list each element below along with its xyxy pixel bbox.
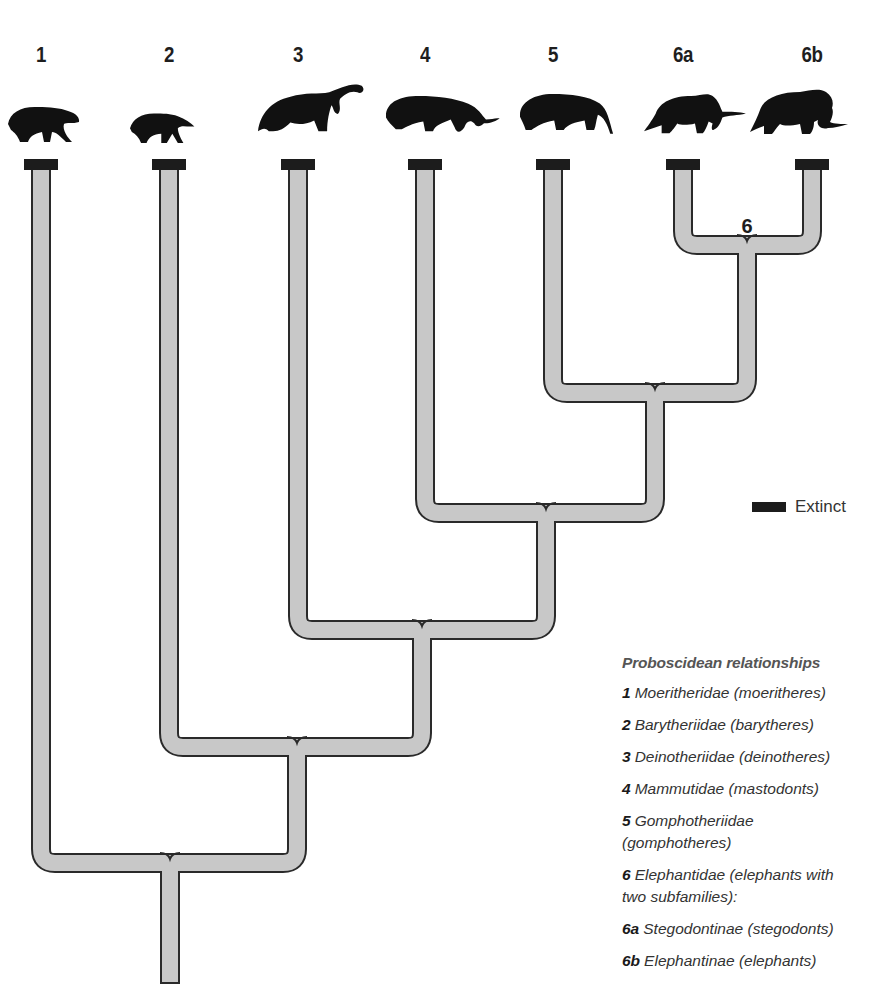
- extinct-marker-1: [24, 159, 58, 170]
- extinct-marker-6a: [666, 159, 700, 170]
- legend-item-1: 1Moeritheridae (moeritheres): [622, 682, 872, 704]
- taxon-label-3: 3: [292, 42, 304, 68]
- legend-item-2: 2Barytheriidae (barytheres): [622, 714, 872, 736]
- extinct-label: Extinct: [795, 497, 846, 517]
- branch-outline-4+: [425, 170, 655, 513]
- moeritherium-silhouette-icon: [8, 107, 79, 142]
- extinct-marker-2: [152, 159, 186, 170]
- stegodon-silhouette-icon-shape: [644, 94, 746, 133]
- branch-4+: [425, 170, 655, 513]
- mastodon-silhouette-icon-shape: [386, 96, 500, 132]
- taxon-label-2: 2: [163, 42, 175, 68]
- deinotherium-silhouette-icon-shape: [258, 84, 363, 131]
- legend-item-6a: 6aStegodontinae (stegodonts): [622, 918, 872, 940]
- taxon-label-5: 5: [547, 42, 559, 68]
- elephant-silhouette-icon-shape: [750, 90, 848, 134]
- branch-outline-5+6: [553, 170, 747, 393]
- extinct-key: Extinct: [752, 497, 846, 517]
- extinct-markers: [24, 159, 829, 170]
- legend-item-6: 6Elephantidae (elephants with two subfam…: [622, 864, 847, 908]
- clade-label-6: 6: [741, 215, 752, 238]
- taxon-label-4: 4: [419, 42, 431, 68]
- gomphothere-silhouette-icon: [520, 94, 613, 134]
- extinct-swatch-icon: [752, 502, 786, 512]
- elephant-silhouette-icon: [750, 90, 848, 134]
- mastodon-silhouette-icon: [386, 96, 500, 132]
- legend-item-5: 5Gomphotheriidae (gomphotheres): [622, 810, 772, 854]
- legend-item-4: 4Mammutidae (mastodonts): [622, 778, 872, 800]
- extinct-marker-5: [536, 159, 570, 170]
- legend: Proboscidean relationships 1Moeritherida…: [622, 654, 872, 982]
- stegodon-silhouette-icon: [644, 94, 746, 133]
- moeritherium-silhouette-icon-shape: [8, 107, 79, 142]
- legend-title: Proboscidean relationships: [622, 654, 872, 672]
- animal-silhouettes: [8, 84, 848, 143]
- branch-5+6: [553, 170, 747, 393]
- deinotherium-silhouette-icon: [258, 84, 363, 131]
- extinct-marker-4: [408, 159, 442, 170]
- taxon-label-1: 1: [35, 42, 47, 68]
- barytherium-silhouette-icon-shape: [130, 114, 194, 143]
- taxon-label-6a: 6a: [671, 42, 694, 68]
- extinct-marker-3: [281, 159, 315, 170]
- taxon-label-6b: 6b: [800, 42, 825, 68]
- legend-item-6b: 6bElephantinae (elephants): [622, 950, 872, 972]
- barytherium-silhouette-icon: [130, 114, 194, 143]
- gomphothere-silhouette-icon-shape: [520, 94, 613, 134]
- legend-item-3: 3Deinotheriidae (deinotheres): [622, 746, 872, 768]
- extinct-marker-6b: [795, 159, 829, 170]
